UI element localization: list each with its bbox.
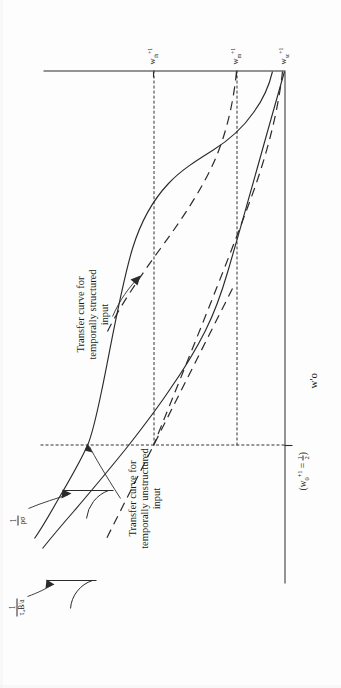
slope-angle-arc-unstructured [70,580,92,608]
dashed-envelope-lower [153,71,282,445]
tick-label-w-m: wm+1 [229,48,242,64]
origin-sub: 0 [302,477,309,480]
tick-w-m-sup: +1 [229,48,235,54]
tick-w-th-sub: th [153,53,159,57]
origin-half-fraction: 12 [296,455,311,460]
origin-eq: = [297,460,307,470]
origin-close: ) [297,452,307,455]
tick-w-m-sub: m [236,53,242,57]
tick-label-w-th: wth+1 [146,48,159,64]
tick-w-th-sup: +1 [146,48,152,54]
origin-sup: +1 [295,470,302,477]
curve-overlay [0,0,341,688]
tick-w-th-base: w [147,58,157,64]
figure-page: Transfer curve for temporally unstructur… [0,0,341,688]
caption-unstructured-line-1: Transfer curve for [126,408,138,588]
tick-w-m-base: w [230,58,240,64]
slope-unstructured-denominator: τ₄B/a [17,598,25,616]
tick-label-w-sc: wsc+1 [277,47,290,64]
slope-structured-denominator: ρσ [18,515,26,525]
slope-unstructured-fraction: 1 τ₄B/a [8,598,25,616]
x-axis-label: w'o [306,373,318,388]
slope-angle-arc-structured [86,490,108,518]
scan-edge-left [0,0,3,688]
caption-structured-line-1: Transfer curve for [74,230,86,398]
slope-unstructured-numerator: 1 [8,598,17,616]
caption-unstructured-line-3: input [150,408,162,588]
origin-half-denominator: 2 [303,455,310,460]
caption-structured-line-3: input [98,230,110,398]
tick-w-sc-sup: +1 [277,47,283,53]
caption-leader-structured [112,278,137,316]
caption-structured-line-2: temporally structured [86,230,98,398]
caption-temporally-unstructured: Transfer curve for temporally unstructur… [126,408,161,588]
dashed-asymptote-structured [106,288,232,538]
slope-structured-fraction: 1 ρσ [9,515,26,525]
slope-structured-numerator: 1 [9,515,18,525]
caption-temporally-structured: Transfer curve for temporally structured… [74,230,109,398]
origin-open: (w [297,480,307,490]
caption-arrowhead-structured [130,275,140,285]
tick-w-sc-base: w [278,58,288,64]
x-origin-label: (w0+1 = 12) [295,452,310,490]
slope-label-structured: 1 ρσ [7,515,26,525]
figure-stage: Transfer curve for temporally unstructur… [0,0,341,688]
slope-label-unstructured: 1 τ₄B/a [6,598,25,616]
caption-unstructured-line-2: temporally unstructured [138,408,150,588]
tick-w-sc-sub: sc [284,53,290,58]
